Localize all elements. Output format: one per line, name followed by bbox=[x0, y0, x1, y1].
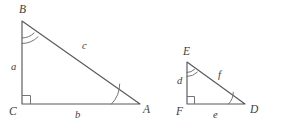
triangle-abc-angle-mark-b-inner bbox=[22, 33, 34, 38]
geometry-figure: B C A a b c E F D d e f bbox=[0, 0, 293, 131]
vertex-label-b: B bbox=[19, 4, 26, 16]
vertex-label-d: D bbox=[250, 104, 258, 116]
side-label-a: a bbox=[11, 62, 16, 73]
side-label-c: c bbox=[82, 41, 87, 52]
side-label-b: b bbox=[75, 110, 80, 121]
triangle-abc-right-angle-mark-c bbox=[22, 96, 31, 105]
side-label-e: e bbox=[213, 110, 218, 121]
side-label-f: f bbox=[218, 70, 221, 81]
triangle-abc-outline bbox=[22, 21, 140, 104]
vertex-label-a: A bbox=[143, 104, 150, 116]
triangle-abc bbox=[22, 21, 140, 104]
triangle-def bbox=[187, 62, 245, 104]
triangle-def-outline bbox=[187, 62, 245, 104]
side-label-d: d bbox=[177, 76, 182, 87]
vertex-label-c: C bbox=[9, 106, 17, 118]
vertex-label-f: F bbox=[176, 106, 183, 118]
triangle-def-angle-mark-e-inner bbox=[187, 69, 195, 72]
triangle-def-right-angle-mark-f bbox=[187, 97, 195, 105]
vertex-label-e: E bbox=[183, 46, 190, 58]
